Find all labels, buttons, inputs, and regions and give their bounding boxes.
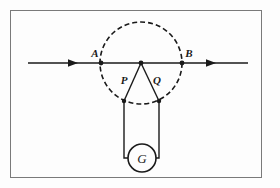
field-arrow-left-icon xyxy=(68,59,78,67)
label-point-q: Q xyxy=(153,74,161,86)
lead-wire-right xyxy=(156,101,159,158)
point-b-marker xyxy=(180,61,185,66)
lead-wire-left xyxy=(124,101,128,158)
label-point-p: P xyxy=(121,74,128,86)
label-point-a: A xyxy=(90,47,98,59)
physics-diagram: A B P Q G xyxy=(0,0,280,188)
diagram-canvas: A B P Q G xyxy=(0,0,280,188)
label-galvanometer: G xyxy=(137,151,147,166)
label-point-b: B xyxy=(184,47,192,59)
point-a-marker xyxy=(99,61,104,66)
field-arrow-right-icon xyxy=(206,59,216,67)
